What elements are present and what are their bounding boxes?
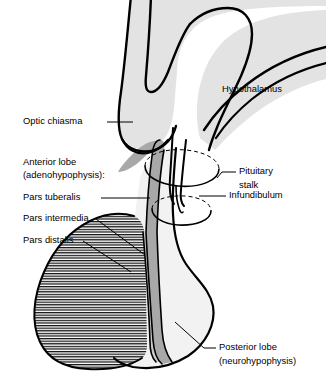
label-infundibulum: Infundibulum [229,189,283,200]
label-pars-intermedia: Pars intermedia [23,212,89,223]
label-anterior-lobe-line2: (adenohypophysis): [23,169,105,180]
label-pars-distalis: Pars distalis [23,234,74,245]
label-posterior-lobe-line1: Posterior lobe [219,341,277,352]
pituitary-diagram-figure: Hypothalamus Optic chiasma Anterior lobe… [0,0,326,386]
label-pars-tuberalis: Pars tuberalis [23,191,81,202]
label-pituitary-stalk-line1: Pituitary [239,165,273,176]
label-hypothalamus: Hypothalamus [222,83,282,94]
label-optic-chiasma: Optic chiasma [23,115,83,126]
label-anterior-lobe-line1: Anterior lobe [23,156,76,167]
anatomy-illustration: Hypothalamus Optic chiasma Anterior lobe… [0,0,326,386]
label-posterior-lobe-line2: (neurohypophysis) [219,355,296,366]
leader-pituitary-stalk [217,172,236,178]
